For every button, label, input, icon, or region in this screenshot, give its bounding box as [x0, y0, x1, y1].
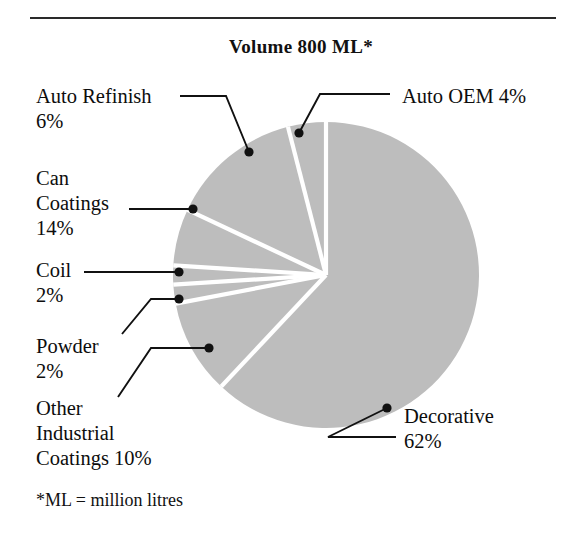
slice-label-auto-oem: Auto OEM 4%	[402, 84, 582, 109]
leader-dot-other-industrial	[204, 343, 213, 352]
leader-dot-auto-oem	[294, 128, 303, 137]
slice-label-powder: Powder 2%	[36, 334, 176, 384]
leader-dot-powder	[174, 294, 183, 303]
leader-dot-decorative	[382, 403, 391, 412]
leader-dot-can-coatings	[188, 204, 197, 213]
slice-label-can-coatings: Can Coatings 14%	[36, 166, 186, 241]
leader-dot-auto-refinish	[244, 147, 253, 156]
leader-dot-coil	[174, 267, 183, 276]
slice-label-decorative: Decorative 62%	[404, 404, 569, 454]
slice-label-other-industrial: Other Industrial Coatings 10%	[36, 396, 231, 471]
pie-chart-figure: Volume 800 ML* Auto Refinish 6% Can Coa	[0, 0, 582, 542]
slice-label-coil: Coil 2%	[36, 258, 156, 308]
slice-label-auto-refinish: Auto Refinish 6%	[36, 84, 221, 134]
footnote: *ML = million litres	[36, 490, 183, 511]
